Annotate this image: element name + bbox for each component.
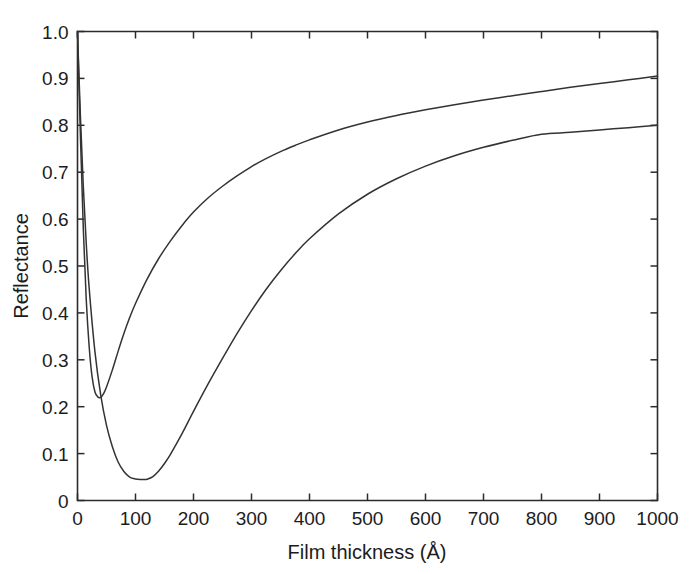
x-tick-label: 200: [178, 508, 210, 529]
reflectance-line-chart: 01002003004005006007008009001000 00.10.2…: [0, 0, 696, 574]
y-tick-label: 0.3: [42, 350, 68, 371]
y-axis-ticks: [78, 32, 658, 501]
y-tick-label: 0.6: [42, 209, 68, 230]
x-axis-tick-labels: 01002003004005006007008009001000: [72, 508, 678, 529]
x-tick-label: 300: [236, 508, 268, 529]
figure-container: 01002003004005006007008009001000 00.10.2…: [0, 0, 696, 574]
x-tick-label: 700: [468, 508, 500, 529]
curve-lower-curve: [78, 32, 658, 480]
x-tick-label: 500: [352, 508, 384, 529]
x-tick-label: 100: [120, 508, 152, 529]
plot-frame: [78, 32, 658, 501]
y-tick-label: 0.8: [42, 115, 68, 136]
y-tick-label: 0.2: [42, 397, 68, 418]
x-tick-label: 800: [526, 508, 558, 529]
y-tick-label: 0.4: [42, 303, 69, 324]
x-tick-label: 1000: [636, 508, 678, 529]
y-tick-label: 0.1: [42, 444, 68, 465]
y-axis-title: Reflectance: [10, 213, 32, 319]
x-tick-label: 0: [72, 508, 83, 529]
y-axis-tick-labels: 00.10.20.30.40.50.60.70.80.91.0: [42, 22, 69, 512]
curve-upper-curve: [78, 32, 658, 398]
x-tick-label: 900: [584, 508, 616, 529]
x-axis-ticks: [78, 32, 658, 501]
x-axis-title: Film thickness (Å): [288, 541, 447, 563]
y-tick-label: 0: [58, 491, 69, 512]
y-tick-label: 0.9: [42, 68, 68, 89]
y-tick-label: 0.5: [42, 256, 68, 277]
data-curves: [78, 32, 658, 480]
y-tick-label: 0.7: [42, 162, 68, 183]
x-tick-label: 600: [410, 508, 442, 529]
x-tick-label: 400: [294, 508, 326, 529]
plot-box: [78, 32, 658, 501]
y-tick-label: 1.0: [42, 22, 68, 43]
